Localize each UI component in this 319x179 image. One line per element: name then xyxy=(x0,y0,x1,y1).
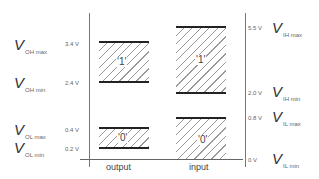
input-column-label: input xyxy=(189,163,209,172)
vil-max-symbol: VIL max xyxy=(272,109,301,132)
vil-min-voltage: 0 V xyxy=(248,157,257,163)
voh-min-voltage: 2.4 V xyxy=(65,80,79,86)
voh-min-symbol: VOH min xyxy=(14,75,45,98)
vol-min-symbol: VOL min xyxy=(14,140,44,163)
vih-max-voltage: 5.5 V xyxy=(248,25,262,31)
output-low-label: '0' xyxy=(117,133,128,143)
input-voltage-axis xyxy=(245,13,246,167)
vih-min-voltage: 2.0 V xyxy=(248,90,262,96)
output-column-label: output xyxy=(106,163,131,172)
vol-max-voltage: 0.4 V xyxy=(65,127,79,133)
input-high-label: '1' xyxy=(195,55,206,65)
vil-max-voltage: 0.8 V xyxy=(248,115,262,121)
vil-min-symbol: VIL min xyxy=(272,151,299,174)
voh-max-symbol: VOH max xyxy=(14,37,47,60)
ground-baseline xyxy=(80,159,243,160)
output-voltage-axis xyxy=(89,13,90,167)
vih-min-symbol: VIH min xyxy=(272,84,300,107)
vih-max-symbol: VIH max xyxy=(272,20,302,43)
output-high-label: '1' xyxy=(116,57,127,67)
input-low-label: '0' xyxy=(197,135,208,145)
vol-min-voltage: 0.2 V xyxy=(65,146,79,152)
voh-max-voltage: 3.4 V xyxy=(65,41,79,47)
